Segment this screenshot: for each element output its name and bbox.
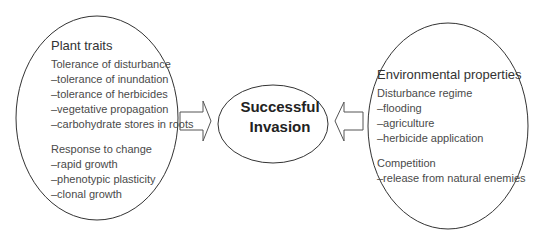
list-item: –tolerance of inundation bbox=[51, 72, 193, 87]
environmental-properties-content: Environmental properties Disturbance reg… bbox=[377, 67, 526, 186]
list-item: –herbicide application bbox=[377, 131, 526, 146]
list-item: –phenotypic plasticity bbox=[51, 172, 193, 187]
list-item: –vegetative propagation bbox=[51, 102, 193, 117]
environmental-properties-title: Environmental properties bbox=[377, 67, 526, 83]
list-item: –rapid growth bbox=[51, 157, 193, 172]
center-label-line1: Successful bbox=[228, 97, 332, 117]
list-item: –clonal growth bbox=[51, 187, 193, 202]
center-label-line2: Invasion bbox=[228, 117, 332, 137]
group-label-response-to-change: Response to change bbox=[51, 142, 193, 157]
plant-traits-content: Plant traits Tolerance of disturbance –t… bbox=[51, 38, 193, 202]
successful-invasion-label: Successful Invasion bbox=[228, 97, 332, 137]
group-label-disturbance-regime: Disturbance regime bbox=[377, 86, 526, 101]
list-item: –tolerance of herbicides bbox=[51, 87, 193, 102]
list-item: –release from natural enemies bbox=[377, 171, 526, 186]
group-label-competition: Competition bbox=[377, 156, 526, 171]
list-item: –carbohydrate stores in roots bbox=[51, 117, 193, 132]
list-item: –flooding bbox=[377, 101, 526, 116]
list-item: –agriculture bbox=[377, 116, 526, 131]
group-label-tolerance-of-disturbance: Tolerance of disturbance bbox=[51, 57, 193, 72]
plant-traits-title: Plant traits bbox=[51, 38, 193, 54]
left-arrow-icon bbox=[335, 102, 363, 141]
